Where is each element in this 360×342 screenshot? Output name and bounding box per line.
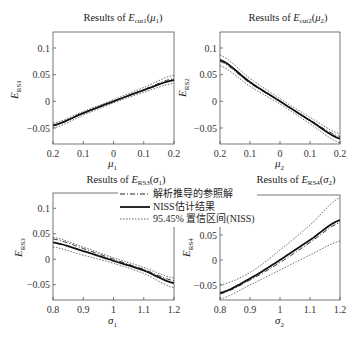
series-line [53, 247, 174, 288]
series-line [53, 75, 174, 123]
dashdot-line-icon [120, 190, 150, 198]
y-tick-label: 0.05 [33, 69, 51, 80]
y-tick-label: 0 [212, 255, 217, 266]
y-tick-label: 0 [45, 96, 50, 107]
y-tick-label: −0.05 [194, 123, 217, 134]
x-tick-label: 1.2 [168, 304, 181, 315]
y-tick-label: −0.05 [194, 280, 217, 291]
y-tick-label: −0.05 [27, 123, 50, 134]
y-tick-label: 0.1 [205, 43, 218, 54]
x-tick-label: 0.2 [47, 148, 60, 159]
y-tick-label: 0.05 [33, 228, 51, 239]
x-tick-label: 0.8 [214, 304, 227, 315]
y-tick-label: 0.1 [38, 203, 51, 214]
series-line [220, 220, 340, 293]
solid-line-icon [120, 203, 150, 211]
series-line [220, 66, 340, 143]
chart-canvas: 0.20.100.10.2−0.0500.050.10.20.100.10.2−… [0, 0, 360, 342]
y-tick-label: 0.05 [200, 69, 218, 80]
series-line [220, 55, 340, 134]
legend-entry-reference: 解析推导的参照解 [120, 188, 255, 201]
x-tick-label: 0.9 [77, 304, 90, 315]
series-line [53, 83, 174, 128]
x-tick-label: 1 [278, 304, 283, 315]
x-tick-label: 1.2 [334, 304, 347, 315]
series-line [53, 237, 174, 278]
y-tick-label: 0.1 [38, 43, 51, 54]
legend-entry-ci: 95.45% 置信区间(NISS) [120, 213, 255, 226]
x-tick-label: 0.1 [304, 148, 317, 159]
x-tick-label: 0.9 [244, 304, 257, 315]
legend: 解析推导的参照解 NISS估计结果 95.45% 置信区间(NISS) [118, 187, 257, 227]
x-tick-label: 0 [111, 148, 116, 159]
dotted-line-icon [120, 215, 150, 223]
x-tick-label: 0.1 [138, 148, 151, 159]
x-tick-label: 1 [111, 304, 116, 315]
series-line [53, 239, 174, 281]
y-tick-label: −0.05 [27, 279, 50, 290]
series-line [220, 223, 340, 295]
y-tick-label: 0.05 [200, 230, 218, 241]
x-tick-label: 0.2 [168, 148, 181, 159]
x-tick-label: 0.2 [334, 148, 347, 159]
series-line [220, 60, 340, 139]
x-tick-label: 0 [278, 148, 283, 159]
y-tick-label: 0 [45, 254, 50, 265]
y-tick-label: 0 [212, 96, 217, 107]
plot-frame [53, 32, 174, 144]
x-tick-label: 0.1 [244, 148, 257, 159]
x-tick-label: 0.1 [77, 148, 90, 159]
x-tick-label: 0.8 [47, 304, 60, 315]
x-tick-label: 1.1 [304, 304, 317, 315]
series-line [53, 80, 174, 125]
x-tick-label: 1.1 [138, 304, 151, 315]
x-tick-label: 0.2 [214, 148, 227, 159]
legend-entry-niss: NISS估计结果 [120, 201, 255, 214]
series-line [53, 242, 174, 283]
